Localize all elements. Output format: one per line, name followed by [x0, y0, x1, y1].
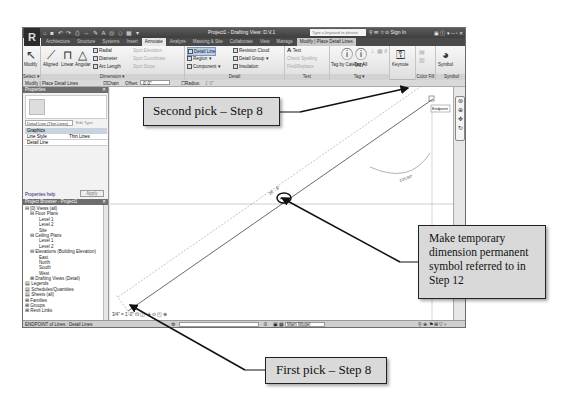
radius-value[interactable]: 1' 0" [205, 80, 214, 87]
status-message: ENDPOINT of Lines : Detail Lines [25, 321, 92, 328]
offset-label: Offset: [125, 80, 138, 87]
tag-all-button[interactable]: ⓘTag All [354, 48, 367, 67]
detail-group-icon [233, 56, 238, 61]
aligned-dimension-icon: ⟋ [43, 48, 58, 62]
diameter-dimension-button[interactable]: Diameter [93, 55, 117, 62]
cursor-icon: ↖ [24, 48, 37, 62]
text-panel: A Text Check Spelling Find/Replace Text [285, 46, 330, 80]
tab-insert[interactable]: Insert [124, 38, 141, 46]
callout-make-permanent: Make temporary dimension permanent symbo… [418, 225, 546, 299]
revision-cloud-icon [233, 48, 238, 53]
modify-button[interactable]: ↖Modify [24, 48, 37, 67]
symbol-icon: ◕ [438, 48, 453, 62]
diameter-icon [93, 56, 98, 61]
offset-value: 0' 0" [143, 80, 152, 87]
spot-slope-button[interactable]: Spot Slope [133, 63, 155, 70]
tab-view[interactable]: View [257, 38, 273, 46]
angular-dimension-icon: △ [75, 48, 91, 62]
infocenter-icons[interactable]: ⚲ ✉ ☆ ⊙ Sign In [369, 29, 406, 35]
aligned-dimension-button[interactable]: ⟋Aligned [43, 48, 58, 67]
tutorial-figure: ⌂ ■ ↶ ↷ ⎙ ↔ ✎ A ◎ ◇ ▦ ▾ Project1 - Draft… [0, 0, 570, 405]
help-search-input[interactable]: Type a keyword or phrase [310, 29, 366, 36]
detail-group-button[interactable]: Detail Group ▾ [233, 55, 269, 62]
edit-type-button[interactable]: Edit Type [76, 120, 93, 125]
spot-elevation-button[interactable]: Spot Elevation [133, 47, 162, 54]
options-context-label: Modify | Place Detail Lines [25, 80, 78, 87]
arc-length-dimension-button[interactable]: Arc Length [93, 63, 121, 70]
view-control-icons[interactable]: ⊡ ◫ ☀ ⊙ ◰ ⊕ [135, 312, 167, 317]
tab-collaborate[interactable]: Collaborate [227, 38, 256, 46]
tab-analyze[interactable]: Analyze [167, 38, 189, 46]
view-scale[interactable]: 3/4" = 1'-0" [112, 312, 134, 317]
type-selector[interactable] [25, 95, 107, 119]
insulation-button[interactable]: Insulation [233, 63, 258, 70]
tab-annotate[interactable]: Annotate [142, 38, 166, 46]
application-menu-button[interactable]: R [24, 28, 40, 46]
type-dropdown[interactable]: Detail Line (Thin Lines) [25, 120, 73, 126]
keynote-icon: ⚿ [392, 48, 409, 62]
property-row[interactable]: Detail Line [25, 140, 107, 146]
angular-dimension-button[interactable]: △Angular [75, 48, 91, 67]
text-button[interactable]: A Text [287, 47, 301, 54]
region-icon [187, 56, 192, 61]
navigation-bar[interactable]: ⊛ ⊕ ✥ ↻ [455, 96, 465, 141]
tab-structure[interactable]: Structure [74, 38, 98, 46]
detail-panel: Detail Line Region ▾ Component ▾ Revisio… [185, 46, 285, 80]
make-permanent-dimension-icon[interactable]: ⊢⊣ [280, 196, 287, 201]
region-button[interactable]: Region ▾ [187, 55, 212, 62]
properties-header: Properties✕ [23, 87, 108, 93]
radius-checkbox[interactable]: ☐ Radius: [181, 80, 185, 87]
pan-icon[interactable]: ✥ [456, 115, 464, 124]
keynote-button[interactable]: ⚿Keynote [392, 48, 409, 67]
component-button[interactable]: Component ▾ [187, 63, 221, 70]
close-icon[interactable]: ✕ [102, 87, 106, 93]
symbol-button[interactable]: ◕Symbol [438, 48, 453, 67]
radial-icon [93, 48, 98, 53]
detail-line[interactable] [128, 99, 433, 311]
dimension-panel: ⟋Aligned ⊓Linear △Angular Radial Diamete… [41, 46, 185, 80]
sign-in-button[interactable]: Sign In [391, 29, 407, 35]
check-spelling-button[interactable]: Check Spelling [287, 55, 317, 62]
steering-wheel-icon[interactable]: ⊛ [456, 97, 464, 106]
chain-checkbox[interactable]: ☑ Chain [103, 80, 107, 87]
revision-cloud-button[interactable]: Revision Cloud [233, 47, 269, 54]
type-preview-image [29, 99, 45, 115]
tab-architecture[interactable]: Architecture [43, 38, 73, 46]
find-replace-button[interactable]: Find/Replace [287, 63, 314, 70]
quick-access-toolbar[interactable]: ⌂ ■ ↶ ↷ ⎙ ↔ ✎ A ◎ ◇ ▦ ▾ [43, 29, 140, 37]
tab-modify-place-detail-lines[interactable]: Modify | Place Detail Lines [297, 38, 356, 46]
ribbon-tabs: Architecture Structure Systems Insert An… [41, 38, 465, 46]
view-control-bar[interactable]: 3/4" = 1'-0" ⊡ ◫ ☀ ⊙ ◰ ⊕ [112, 312, 167, 317]
browser-scrollbar[interactable] [103, 205, 108, 320]
tree-item[interactable]: ⊞ Revit Links [25, 308, 103, 313]
zero-label: :0 [263, 321, 267, 328]
keynote-panel: ⚿Keynote [390, 46, 416, 80]
angle-label: 135.00° [399, 173, 414, 183]
symbol-panel: ◕Symbol Symbol [436, 46, 466, 80]
selection-filter-icons[interactable]: ⚲ ⊕ ⚑ ⊞ ▽ ⌖ [418, 321, 447, 328]
linear-dimension-button[interactable]: ⊓Linear [61, 48, 74, 67]
witness-line [116, 295, 128, 311]
properties-help-link[interactable]: Properties help [25, 192, 55, 197]
tab-massing-site[interactable]: Massing & Site [190, 38, 226, 46]
tag-tools[interactable]: ⊥ ▦ ♯ [370, 48, 387, 55]
orbit-icon[interactable]: ↻ [456, 124, 464, 133]
tab-manage[interactable]: Manage [274, 38, 296, 46]
design-options-icon[interactable]: ▣ ▦ [273, 321, 284, 328]
color-fill-panel: ▤▥ Color Fill [416, 46, 436, 80]
spot-coordinate-button[interactable]: Spot Coordinate [133, 55, 166, 62]
zoom-icon[interactable]: ⊕ [456, 106, 464, 115]
tag-panel: ⓘTag by Category ⓘTag All ⊥ ▦ ♯ Tag ▾ [330, 46, 390, 80]
options-bar: Modify | Place Detail Lines ☑ Chain Offs… [23, 80, 465, 87]
radial-dimension-button[interactable]: Radial [93, 47, 112, 54]
tab-systems[interactable]: Systems [99, 38, 122, 46]
linear-dimension-icon: ⊓ [61, 48, 74, 62]
workset-icon[interactable]: ⚙ [171, 321, 175, 328]
tree-item[interactable]: ⊟ Elevations (Building Elevation) [25, 249, 103, 254]
project-browser: Project Browser - Project1✕ ⊟ [0] Views … [23, 199, 109, 320]
insulation-icon [233, 64, 238, 69]
apply-button[interactable]: Apply [80, 190, 104, 197]
component-icon [187, 64, 192, 69]
window-controls[interactable]: ▣ ⓘ ▾ ─ ▫ ✕ [434, 29, 463, 36]
color-fill-tools[interactable]: ▤▥ [419, 48, 425, 64]
